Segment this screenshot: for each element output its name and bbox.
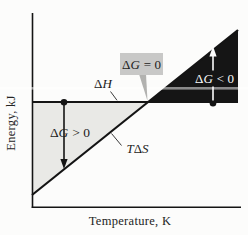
diagram-canvas: ΔG= 0 ΔG> 0 ΔG< 0 ΔH TΔS Energy, kJ Temp… [0, 0, 248, 235]
dh-reference-dot-right [210, 100, 217, 107]
dh-reference-dot-left [61, 99, 68, 106]
x-axis-title: Temperature, K [89, 214, 171, 228]
dh-label: ΔH [94, 76, 112, 91]
dh-label-leader [111, 92, 118, 101]
tds-label: TΔS [126, 141, 149, 156]
scan-artifact-stripe [0, 87, 248, 90]
tds-label-leader [112, 134, 122, 146]
y-axis-title: Energy, kJ [4, 95, 18, 150]
free-energy-vs-temperature-figure: ΔG= 0 ΔG> 0 ΔG< 0 ΔH TΔS Energy, kJ Temp… [0, 0, 248, 235]
